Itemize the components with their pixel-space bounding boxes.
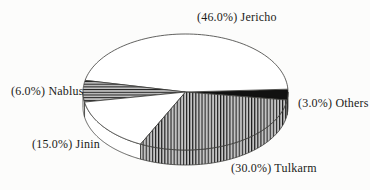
pie-top-faces	[83, 34, 288, 150]
slice-label-nablus: (6.0%) Nablus	[11, 85, 84, 97]
pie-slice-jericho	[85, 34, 288, 92]
slice-label-jericho: (46.0%) Jericho	[197, 11, 277, 23]
pie-chart: (46.0%) Jericho (6.0%) Nablus (3.0%) Oth…	[0, 0, 370, 190]
slice-label-tulkarm: (30.0%) Tulkarm	[231, 162, 317, 174]
slice-label-jinin: (15.0%) Jinin	[32, 138, 100, 150]
slice-label-others: (3.0%) Others	[298, 97, 369, 109]
